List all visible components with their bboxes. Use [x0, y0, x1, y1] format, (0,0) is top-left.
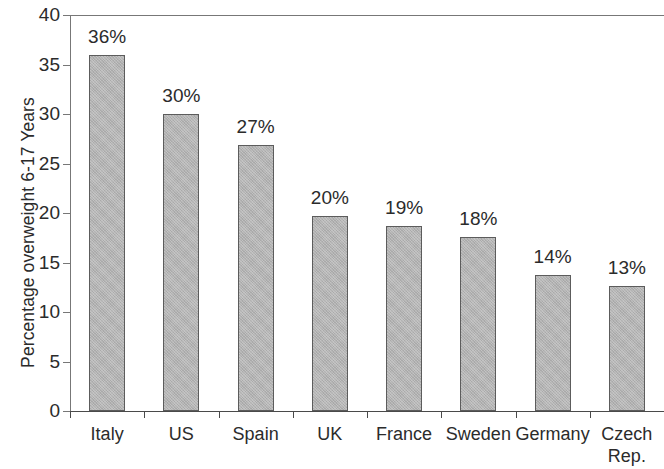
y-axis-tick — [63, 114, 70, 115]
x-axis-tick — [367, 411, 368, 418]
y-axis-tick — [63, 411, 70, 412]
bar-value-label: 30% — [162, 85, 200, 107]
x-axis-category-label: Czech Rep. — [590, 423, 664, 467]
x-axis-category-label: Spain — [233, 423, 279, 445]
x-axis-tick — [70, 411, 71, 418]
y-axis-tick-label: 20 — [39, 202, 60, 224]
bar-value-label: 20% — [311, 187, 349, 209]
bar — [312, 216, 348, 411]
x-axis-tick — [441, 411, 442, 418]
plot-top-border — [70, 15, 664, 16]
bar-value-label: 27% — [237, 116, 275, 138]
bar-value-label: 36% — [88, 26, 126, 48]
y-axis-tick — [63, 65, 70, 66]
y-axis-tick-label: 35 — [39, 54, 60, 76]
x-axis-line — [64, 411, 664, 412]
x-axis-tick — [516, 411, 517, 418]
y-axis-line — [70, 15, 71, 411]
bar-value-label: 13% — [608, 257, 646, 279]
x-axis-tick — [293, 411, 294, 418]
y-axis-title: Percentage overweight 6-17 Years — [18, 53, 39, 413]
y-axis-tick-label: 40 — [39, 4, 60, 26]
y-axis-tick-label: 10 — [39, 301, 60, 323]
x-axis-category-label: US — [169, 423, 194, 445]
y-axis-tick-label: 5 — [49, 351, 60, 373]
y-axis-tick — [63, 263, 70, 264]
bar-value-label: 14% — [534, 246, 572, 268]
bar-value-label: 19% — [385, 197, 423, 219]
y-axis-tick — [63, 164, 70, 165]
bar — [238, 145, 274, 411]
bar-chart-figure: Percentage overweight 6-17 Years 0510152… — [0, 0, 664, 469]
plot-area: 0510152025303540 36%30%27%20%19%18%14%13… — [70, 15, 664, 411]
x-axis-category-label: UK — [317, 423, 342, 445]
x-axis-category-label: Italy — [91, 423, 124, 445]
y-axis-tick-label: 25 — [39, 153, 60, 175]
x-axis-tick — [590, 411, 591, 418]
y-axis-tick-label: 0 — [49, 400, 60, 422]
x-axis-category-label: Germany — [516, 423, 590, 445]
bar — [609, 286, 645, 411]
x-axis-category-label: France — [376, 423, 432, 445]
bar — [535, 275, 571, 411]
bar — [163, 114, 199, 411]
y-axis-tick — [63, 362, 70, 363]
y-axis-tick-label: 30 — [39, 103, 60, 125]
bar-value-label: 18% — [459, 208, 497, 230]
y-axis-tick-label: 15 — [39, 252, 60, 274]
x-axis-tick — [144, 411, 145, 418]
x-axis-tick — [219, 411, 220, 418]
bar — [386, 226, 422, 411]
bar — [460, 237, 496, 411]
bar — [89, 55, 125, 411]
y-axis-tick — [63, 312, 70, 313]
y-axis-tick — [63, 213, 70, 214]
x-axis-category-label: Sweden — [446, 423, 511, 445]
y-axis-tick — [63, 15, 70, 16]
